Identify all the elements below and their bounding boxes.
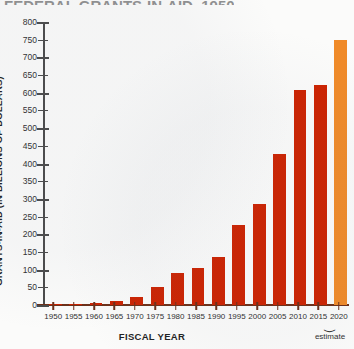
plot-area: 0501001502002503003504004505005506006507…	[43, 22, 349, 305]
y-tick-label: 200	[23, 229, 37, 239]
bar-1960	[90, 22, 103, 305]
y-tick-label: 750	[23, 35, 37, 45]
bar-rect	[90, 303, 103, 305]
y-tick-label: 300	[23, 194, 37, 204]
x-tick-label: 1995	[228, 312, 246, 321]
bar-rect	[171, 273, 184, 305]
y-axis-title: GRANTS-IN-AID (IN BILLIONS OF DOLLARS)	[0, 77, 4, 287]
bar-rect	[110, 301, 123, 305]
bar-1990	[212, 22, 225, 305]
estimate-label: estimate	[315, 332, 345, 341]
x-tick-label: 1965	[105, 312, 123, 321]
y-tick-label: 50	[28, 282, 37, 292]
bar-1955	[69, 22, 82, 305]
y-tick-label: 600	[23, 88, 37, 98]
x-tick	[52, 302, 54, 310]
x-tick-label: 1985	[187, 312, 205, 321]
y-tick-label: 100	[23, 265, 37, 275]
bar-rect	[314, 85, 327, 305]
y-tick-label: 450	[23, 141, 37, 151]
y-tick-label: 500	[23, 123, 37, 133]
bar-chart: FEDERAL GRANTS-IN-AID, 1950-2020 GRANTS-…	[0, 0, 354, 349]
bar-series	[45, 22, 349, 305]
bar-rect	[273, 154, 286, 305]
x-tick-label: 1960	[85, 312, 103, 321]
bar-2020	[334, 22, 347, 305]
x-tick-label: 1990	[207, 312, 225, 321]
x-tick	[134, 302, 136, 310]
x-tick	[154, 302, 156, 310]
x-tick-label: 1980	[167, 312, 185, 321]
bar-1975	[151, 22, 164, 305]
x-tick	[175, 302, 177, 310]
x-axis-title: FISCAL YEAR	[119, 331, 185, 342]
x-tick-label: 2000	[248, 312, 266, 321]
bar-rect	[69, 304, 82, 305]
bar-1970	[130, 22, 143, 305]
y-tick-label: 550	[23, 105, 37, 115]
x-tick-label: 2010	[289, 312, 307, 321]
bar-1995	[232, 22, 245, 305]
y-tick	[37, 305, 49, 307]
y-tick-label: 250	[23, 212, 37, 222]
bar-1985	[192, 22, 205, 305]
bar-1950	[49, 22, 62, 305]
bar-1980	[171, 22, 184, 305]
x-tick	[114, 302, 116, 310]
bar-rect	[253, 204, 266, 305]
brace-icon: ⏝	[315, 322, 345, 329]
bar-2005	[273, 22, 286, 305]
y-tick-label: 0	[32, 300, 37, 310]
x-tick	[93, 302, 95, 310]
x-tick	[318, 302, 320, 310]
bar-rect	[294, 90, 307, 305]
x-tick	[73, 302, 75, 310]
bar-rect	[151, 287, 164, 305]
y-tick-label: 150	[23, 247, 37, 257]
x-tick-label: 1950	[44, 312, 62, 321]
bar-rect	[334, 40, 347, 305]
bar-rect	[232, 225, 245, 305]
x-tick-label: 1970	[126, 312, 144, 321]
x-tick-label: 1975	[146, 312, 164, 321]
y-tick-label: 800	[23, 17, 37, 27]
x-tick	[195, 302, 197, 310]
bar-2015	[314, 22, 327, 305]
bar-2000	[253, 22, 266, 305]
x-tick	[256, 302, 258, 310]
x-tick-label: 1955	[65, 312, 83, 321]
y-tick-label: 650	[23, 70, 37, 80]
bar-rect	[212, 257, 225, 305]
bar-rect	[192, 268, 205, 305]
x-tick	[216, 302, 218, 310]
x-tick	[277, 302, 279, 310]
x-tick	[236, 302, 238, 310]
x-tick	[297, 302, 299, 310]
x-tick	[338, 302, 340, 310]
chart-title-cropped: FEDERAL GRANTS-IN-AID, 1950-2020	[4, 0, 234, 5]
bar-2010	[294, 22, 307, 305]
y-tick-label: 400	[23, 159, 37, 169]
estimate-annotation: ⏝ estimate	[315, 322, 345, 341]
y-tick-label: 700	[23, 52, 37, 62]
y-tick-label: 350	[23, 176, 37, 186]
bar-1965	[110, 22, 123, 305]
x-tick-label: 2005	[269, 312, 287, 321]
bar-rect	[130, 297, 143, 305]
bar-rect	[49, 304, 62, 305]
